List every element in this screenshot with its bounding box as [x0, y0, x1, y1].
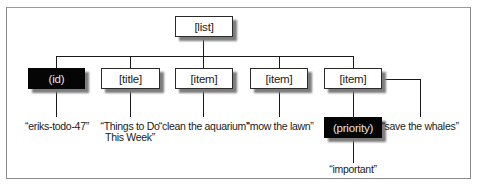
- connector-root-down: [203, 37, 204, 56]
- connector-whales-down: [420, 79, 421, 117]
- node-title-label: [title]: [119, 73, 142, 85]
- connector-horizontal-bar: [56, 56, 354, 57]
- value-item-2: “mow the lawn”: [247, 121, 314, 132]
- node-item-1-label: [item]: [191, 73, 218, 85]
- node-item-2: [item]: [250, 68, 308, 89]
- node-item-3: [item]: [324, 68, 382, 89]
- value-item-1: “clean the aquarium”: [159, 121, 249, 132]
- node-item-2-label: [item]: [266, 73, 293, 85]
- value-priority: “important”: [329, 164, 376, 175]
- value-title: “Things to Do This Week”: [100, 121, 159, 143]
- connector-title-value: [130, 89, 131, 117]
- value-id: “eriks-todo-47”: [25, 121, 89, 132]
- value-title-line2: This Week”: [100, 132, 159, 143]
- node-list: [list]: [175, 16, 233, 37]
- connector-to-item-2: [279, 56, 280, 68]
- node-id: (id): [28, 68, 85, 89]
- diagram-frame: [6, 7, 471, 179]
- connector-id-value: [56, 89, 57, 117]
- connector-to-item-1: [203, 56, 204, 68]
- connector-item-1-value: [203, 89, 204, 117]
- connector-item-2-value: [279, 89, 280, 117]
- node-priority-label: (priority): [333, 122, 373, 134]
- connector-item-3-priority: [353, 89, 354, 117]
- node-priority: (priority): [324, 117, 382, 138]
- node-item-3-label: [item]: [340, 73, 367, 85]
- node-id-label: (id): [49, 73, 65, 85]
- connector-item-3-right: [382, 79, 420, 80]
- node-list-label: [list]: [194, 21, 213, 33]
- value-item-3: “save the whales”: [381, 121, 458, 132]
- connector-to-id: [56, 56, 57, 68]
- connector-to-title: [130, 56, 131, 68]
- node-title: [title]: [101, 68, 160, 89]
- node-item-1: [item]: [175, 68, 233, 89]
- connector-priority-value: [353, 137, 354, 163]
- connector-to-item-3: [353, 56, 354, 68]
